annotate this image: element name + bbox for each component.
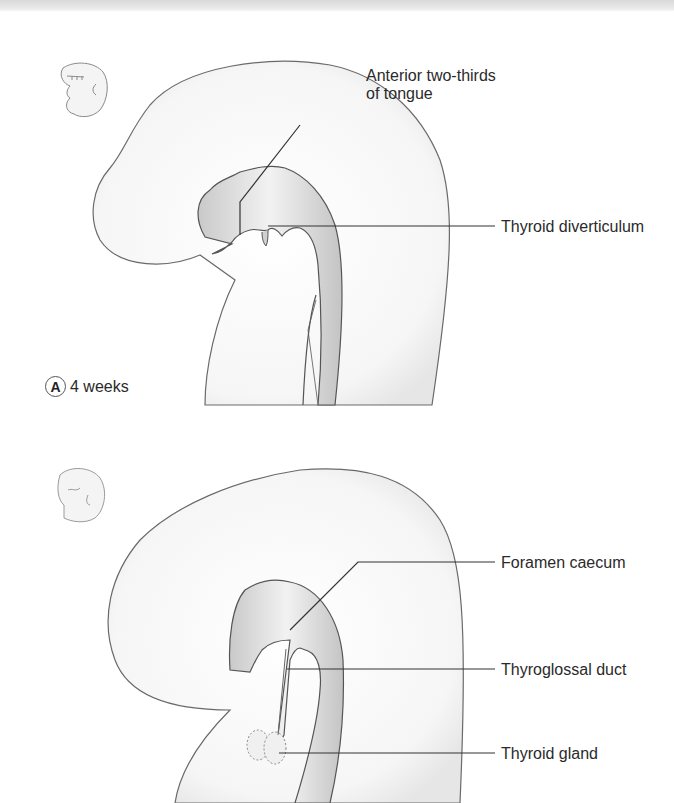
label-anterior-tongue-line2: of tongue	[366, 85, 433, 102]
panel-b-embryo-thumbnail	[58, 469, 105, 522]
panel-age: 4 weeks	[70, 378, 129, 396]
embryology-figure	[0, 0, 674, 803]
panel-a-tag: A 4 weeks	[45, 376, 129, 397]
panel-a-head-outline	[93, 61, 449, 405]
label-thyroid-diverticulum: Thyroid diverticulum	[501, 218, 644, 235]
label-thyroglossal-duct: Thyroglossal duct	[501, 661, 626, 678]
label-anterior-tongue-line1: Anterior two-thirds	[366, 67, 496, 84]
label-foramen-caecum: Foramen caecum	[501, 554, 626, 571]
panel-a-embryo-thumbnail	[61, 63, 107, 117]
label-thyroid-gland: Thyroid gland	[501, 745, 598, 762]
panel-letter-badge: A	[45, 376, 66, 397]
